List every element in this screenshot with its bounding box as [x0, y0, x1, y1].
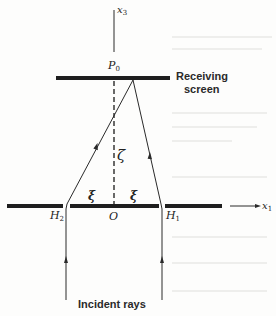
incident-arrow-left-icon — [64, 256, 68, 263]
x1-label-subscript: 1 — [268, 205, 272, 213]
x3-axis-label: x3 — [117, 4, 127, 17]
diffracted-arrow-left-icon — [93, 143, 97, 150]
p0-label-subscript: 0 — [115, 65, 119, 73]
zeta-label: ζ — [117, 146, 125, 164]
incident-rays-label: Incident rays — [78, 298, 146, 310]
ray-h1 — [133, 80, 162, 300]
h1-label-subscript: 1 — [176, 215, 180, 223]
p0-label: P0 — [108, 59, 120, 73]
diffracted-arrow-right-icon — [148, 152, 152, 159]
h1-label: H1 — [166, 209, 180, 223]
x3-label-subscript: 3 — [123, 9, 127, 17]
h2-label: H2 — [50, 209, 64, 223]
origin-label: O — [109, 210, 118, 223]
receiving-screen-label: Receiving screen — [176, 70, 228, 96]
receiving-screen-line1: Receiving — [176, 70, 228, 83]
x1-arrowhead-icon — [255, 204, 261, 208]
h2-label-subscript: 2 — [60, 215, 64, 223]
h2-label-text: H — [50, 209, 60, 222]
h1-label-text: H — [166, 209, 176, 222]
xi-left-label: ξ — [88, 189, 95, 203]
diagram-lines — [0, 0, 276, 316]
receiving-screen-line2: screen — [176, 83, 228, 96]
xi-right-label: ξ — [130, 189, 137, 203]
ray-h2 — [66, 80, 133, 300]
diagram-canvas: x3 P0 Receiving screen ζ ξ ξ H2 O H1 x1 … — [0, 0, 276, 316]
x1-axis-label: x1 — [262, 200, 272, 213]
incident-arrow-right-icon — [160, 256, 164, 263]
